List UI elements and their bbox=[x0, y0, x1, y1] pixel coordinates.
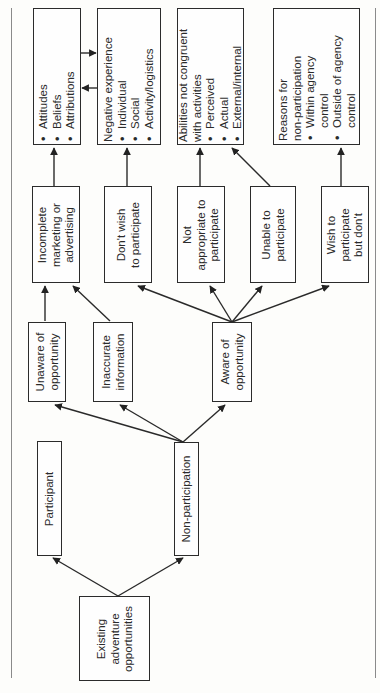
dont-wish-line-2: to participate bbox=[128, 202, 142, 268]
node-participant: Participant bbox=[37, 441, 62, 556]
node-not-appropriate: Not appropriate to participate bbox=[177, 186, 225, 283]
node-reasons-for-non-participation: Reasons for non-participation Within age… bbox=[273, 8, 360, 145]
existing-line-3: opportunities bbox=[121, 606, 135, 672]
frame-right-line bbox=[375, 8, 376, 678]
incomplete-line-2: marketing or bbox=[49, 203, 63, 267]
node-abilities-not-congruent: Abilities not congruent with activities … bbox=[177, 8, 244, 145]
existing-line-1: Existing bbox=[94, 606, 108, 672]
existing-line-2: adventure bbox=[108, 606, 122, 672]
wish-line-3: but don't bbox=[352, 208, 366, 261]
bullet-beliefs: Beliefs bbox=[50, 12, 64, 142]
unable-line-1: Unable to bbox=[260, 208, 274, 261]
not-appropriate-line-2: appropriate to bbox=[194, 199, 208, 270]
unaware-line-1: Unaware of bbox=[34, 333, 48, 392]
node-unaware-of-opportunity: Unaware of opportunity bbox=[28, 322, 66, 402]
bullet-individual: Individual bbox=[116, 12, 130, 142]
node-attitudes-beliefs-attributions: Attitudes Beliefs Attributions bbox=[33, 8, 81, 145]
node-aware-of-opportunity: Aware of opportunity bbox=[212, 322, 252, 402]
participant-label: Participant bbox=[43, 471, 57, 525]
bullet-within-agency-cont: control bbox=[317, 13, 331, 141]
aware-line-1: Aware of bbox=[219, 334, 233, 391]
negative-experience-heading: Negative experience bbox=[102, 12, 116, 142]
bullet-perceived: Perceived bbox=[204, 12, 218, 142]
inaccurate-line-2: information bbox=[113, 334, 127, 391]
wish-line-1: Wish to bbox=[325, 208, 339, 261]
not-appropriate-line-1: Not bbox=[181, 199, 195, 270]
wish-line-2: participate bbox=[338, 208, 352, 261]
node-existing-adventure-opportunities: Existing adventure opportunities bbox=[79, 596, 150, 681]
not-appropriate-line-3: participate bbox=[208, 199, 222, 270]
incomplete-line-1: Incomplete bbox=[36, 203, 50, 267]
unable-line-2: participate bbox=[273, 208, 287, 261]
node-dont-wish-to-participate: Don't wish to participate bbox=[104, 186, 152, 283]
bullet-attitudes: Attitudes bbox=[37, 12, 51, 142]
bullet-outside-agency: Outside of agency bbox=[330, 13, 344, 141]
frame-left-line bbox=[11, 8, 12, 678]
non-participation-label: Non-participation bbox=[180, 456, 194, 543]
incomplete-line-3: advertising bbox=[63, 203, 77, 267]
node-negative-experience: Negative experience Individual Social Ac… bbox=[97, 8, 161, 145]
reasons-heading-line-2: non-participation bbox=[290, 13, 304, 141]
abilities-heading-line-2: with activities bbox=[190, 12, 204, 142]
node-wish-but-dont: Wish to participate but don't bbox=[321, 186, 369, 283]
aware-line-2: opportunity bbox=[232, 334, 246, 391]
bullet-within-agency: Within agency bbox=[303, 13, 317, 141]
node-inaccurate-information: Inaccurate information bbox=[93, 322, 133, 402]
bullet-outside-agency-cont: control bbox=[344, 13, 358, 141]
reasons-heading-line-1: Reasons for bbox=[276, 13, 290, 141]
node-unable-to-participate: Unable to participate bbox=[250, 186, 296, 283]
dont-wish-line-1: Don't wish bbox=[115, 202, 129, 268]
bullet-actual: Actual bbox=[217, 12, 231, 142]
node-non-participation: Non-participation bbox=[174, 442, 199, 556]
bullet-attributions: Attributions bbox=[64, 12, 78, 142]
unaware-line-2: opportunity bbox=[47, 333, 61, 392]
bullet-activity-logistics: Activity/logistics bbox=[143, 12, 157, 142]
bullet-external-internal: External/internal bbox=[231, 12, 245, 142]
node-incomplete-marketing: Incomplete marketing or advertising bbox=[32, 186, 80, 283]
inaccurate-line-1: Inaccurate bbox=[100, 334, 114, 391]
bullet-social: Social bbox=[129, 12, 143, 142]
abilities-heading-line-1: Abilities not congruent bbox=[177, 12, 191, 142]
